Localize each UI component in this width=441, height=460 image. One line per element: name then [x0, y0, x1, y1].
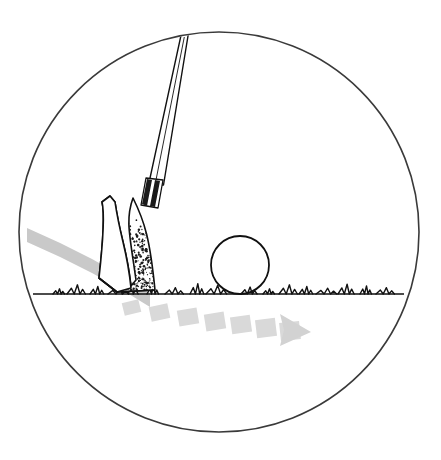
stipple-dot — [140, 234, 141, 235]
stipple-dot — [151, 282, 153, 284]
golf-swing-illustration: Golf club impact and swing path illustra… — [0, 0, 441, 460]
stipple-dot — [138, 231, 140, 233]
stipple-dot — [142, 268, 144, 270]
stipple-dot — [139, 266, 141, 268]
stipple-dot — [137, 282, 138, 283]
stipple-dot — [144, 269, 146, 271]
stipple-dot — [141, 229, 142, 230]
stipple-dot — [146, 282, 148, 284]
swing-path-dash — [204, 312, 226, 332]
stipple-dot — [145, 248, 147, 250]
stipple-dot — [142, 233, 144, 235]
stipple-dot — [148, 256, 150, 258]
stipple-dot — [146, 272, 147, 273]
stipple-dot — [150, 279, 151, 280]
stipple-dot — [134, 245, 136, 247]
stipple-dot — [136, 256, 138, 258]
stipple-dot — [152, 286, 153, 287]
stipple-dot — [148, 266, 150, 268]
stipple-dot — [139, 255, 142, 258]
stipple-dot — [142, 259, 144, 261]
stipple-dot — [144, 280, 146, 282]
stipple-dot — [147, 255, 149, 257]
stipple-dot — [149, 278, 151, 280]
stipple-dot — [143, 278, 145, 280]
stipple-dot — [133, 288, 135, 290]
stipple-dot — [133, 283, 135, 285]
stipple-dot — [139, 264, 141, 266]
stipple-dot — [138, 238, 140, 240]
stipple-dot — [144, 234, 145, 235]
stipple-dot — [138, 254, 140, 256]
stipple-dot — [140, 248, 141, 249]
stipple-dot — [147, 274, 148, 275]
stipple-dot — [137, 278, 139, 280]
stipple-dot — [145, 286, 147, 288]
stipple-dot — [140, 282, 141, 283]
stipple-dot — [148, 286, 149, 287]
stipple-dot — [140, 287, 142, 289]
stipple-dot — [136, 219, 138, 221]
stipple-dot — [141, 249, 143, 251]
stipple-dot — [140, 246, 141, 247]
stipple-dot — [134, 266, 136, 268]
stipple-dot — [136, 275, 137, 276]
stipple-dot — [137, 268, 139, 270]
stipple-dot — [143, 274, 144, 275]
stipple-dot — [131, 237, 134, 240]
stipple-dot — [142, 239, 144, 241]
swing-path-dash — [177, 307, 199, 326]
stipple-dot — [139, 232, 141, 234]
stipple-dot — [135, 233, 137, 235]
stipple-dot — [145, 258, 147, 260]
stipple-dot — [132, 250, 134, 252]
stipple-dot — [134, 252, 135, 253]
stipple-dot — [141, 271, 143, 273]
stipple-dot — [138, 251, 140, 253]
stipple-dot — [149, 281, 150, 282]
stipple-dot — [147, 267, 148, 268]
stipple-dot — [138, 260, 139, 261]
stipple-dot — [149, 255, 150, 256]
stipple-dot — [140, 262, 143, 265]
stipple-dot — [140, 280, 141, 281]
stipple-dot — [150, 259, 151, 260]
stipple-dot — [141, 245, 143, 247]
stipple-dot — [143, 265, 146, 268]
swing-path-dash — [230, 315, 252, 335]
stipple-dot — [136, 283, 137, 284]
stipple-dot — [141, 270, 142, 271]
stipple-dot — [140, 225, 142, 227]
stipple-dot — [147, 264, 148, 265]
stipple-dot — [144, 240, 145, 241]
stipple-dot — [143, 286, 144, 287]
stipple-dot — [136, 240, 137, 241]
stipple-dot — [139, 280, 140, 281]
stipple-dot — [139, 242, 140, 243]
stipple-dot — [150, 262, 152, 264]
stipple-dot — [135, 288, 137, 290]
stipple-dot — [151, 272, 153, 274]
stipple-dot — [152, 276, 153, 277]
stipple-dot — [137, 286, 139, 288]
swing-path-dash — [255, 318, 277, 338]
stipple-dot — [143, 244, 145, 246]
stipple-dot — [144, 284, 146, 286]
stipple-dot — [149, 283, 150, 284]
stipple-dot — [141, 240, 143, 242]
stipple-dot — [142, 243, 143, 244]
stipple-dot — [135, 286, 136, 287]
stipple-dot — [135, 260, 137, 262]
stipple-dot — [147, 285, 148, 286]
stipple-dot — [142, 252, 143, 253]
stipple-dot — [137, 244, 140, 247]
stipple-dot — [145, 237, 146, 238]
stipple-dot — [149, 282, 150, 283]
stipple-dot — [138, 271, 140, 273]
stipple-dot — [142, 283, 144, 285]
stipple-dot — [133, 240, 135, 242]
stipple-dot — [138, 277, 140, 279]
golf-ball — [211, 236, 269, 294]
stipple-dot — [148, 259, 149, 260]
stipple-dot — [129, 225, 131, 227]
